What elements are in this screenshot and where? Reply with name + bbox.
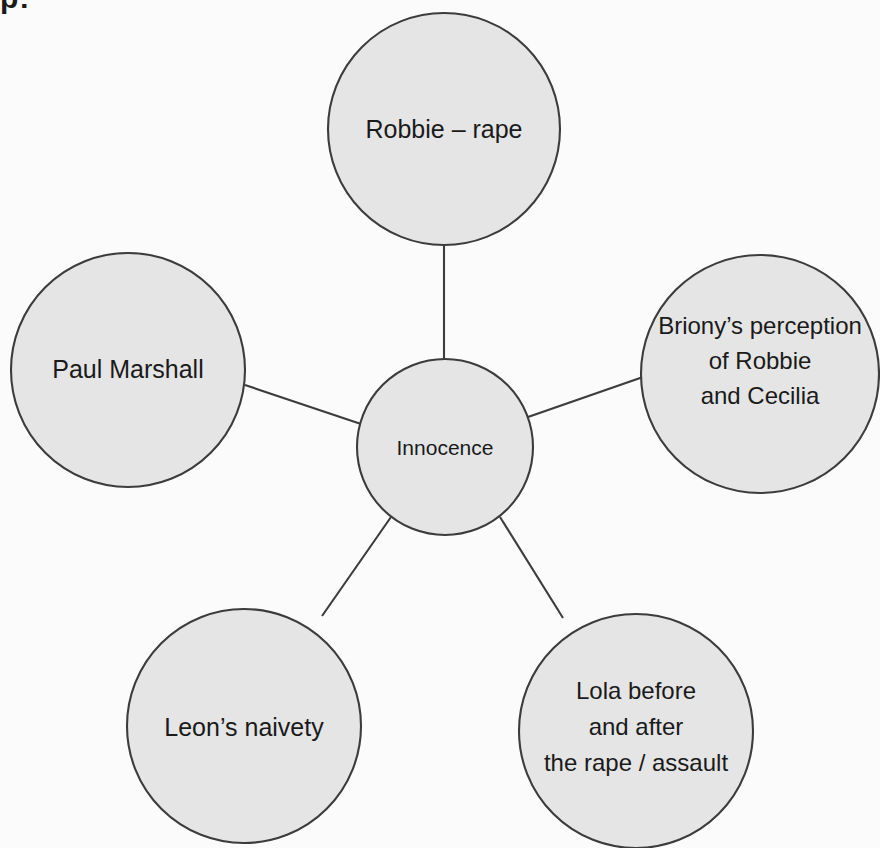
node-label-brionys-perception-line1: Briony’s perception <box>658 312 862 339</box>
node-leons-naivety[interactable]: Leon’s naivety <box>127 609 361 843</box>
node-paul-marshall[interactable]: Paul Marshall <box>11 253 245 487</box>
mindmap-svg: Robbie – rape Briony’s perception of Rob… <box>0 0 880 848</box>
node-label-brionys-perception-line2: of Robbie <box>709 347 812 374</box>
node-lola-before-after[interactable]: Lola before and after the rape / assault <box>519 614 753 848</box>
connector-center-to-paul-marshall <box>245 385 361 424</box>
node-label-paul-marshall: Paul Marshall <box>52 355 203 383</box>
node-label-innocence: Innocence <box>397 436 494 459</box>
node-label-lola-line3: the rape / assault <box>544 749 728 776</box>
mindmap-canvas: p: Robbie – rape Briony’s perception of … <box>0 0 880 848</box>
node-innocence-center[interactable]: Innocence <box>357 359 533 535</box>
node-robbie-rape[interactable]: Robbie – rape <box>328 13 560 245</box>
page-text-fragment: p: <box>0 0 30 13</box>
connector-center-to-lola <box>500 517 563 618</box>
node-label-brionys-perception-line3: and Cecilia <box>701 382 820 409</box>
connector-center-to-briony <box>528 377 643 417</box>
node-label-lola-line2: and after <box>589 713 684 740</box>
node-label-leons-naivety: Leon’s naivety <box>164 713 324 741</box>
node-label-robbie-rape: Robbie – rape <box>365 115 522 143</box>
node-label-lola-line1: Lola before <box>576 677 696 704</box>
connector-center-to-leon <box>322 517 391 616</box>
node-brionys-perception[interactable]: Briony’s perception of Robbie and Cecili… <box>641 255 879 493</box>
